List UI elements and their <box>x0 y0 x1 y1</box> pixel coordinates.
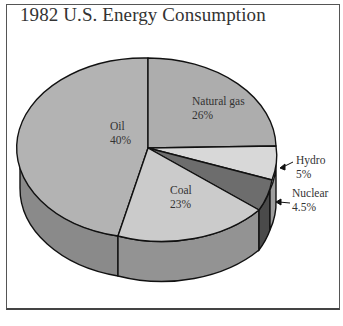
label-coal-pct: 23% <box>170 198 192 210</box>
label-natural-gas: Natural gas <box>192 95 245 108</box>
label-hydro: Hydro <box>296 154 326 167</box>
label-coal: Coal <box>170 184 192 196</box>
nuclear-arrow-icon <box>276 199 281 205</box>
leader-lines <box>276 162 293 205</box>
label-nuclear-pct: 4.5% <box>292 201 316 213</box>
label-natural-gas-pct: 26% <box>192 109 214 121</box>
label-hydro-pct: 5% <box>296 168 312 180</box>
label-nuclear: Nuclear <box>292 187 329 199</box>
pie-chart: Natural gas 26% Oil 40% Coal 23% Hydro 5… <box>0 0 343 326</box>
hydro-arrow-icon <box>280 164 285 170</box>
label-oil: Oil <box>110 120 125 132</box>
label-oil-pct: 40% <box>110 134 132 146</box>
